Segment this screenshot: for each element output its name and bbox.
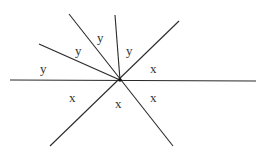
lines-group [10,14,256,146]
angle-label-y: y [126,43,133,58]
angle-label-x: x [115,96,122,111]
vertical-ray-line [115,15,120,80]
angle-label-y: y [75,43,82,58]
horizontal-line [10,80,256,81]
angle-label-x: x [150,61,157,76]
angle-label-y: y [40,61,47,76]
angle-label-x: x [69,90,76,105]
intersection-point [118,78,122,82]
rising-diagonal-line [50,21,179,146]
angle-label-x: x [150,90,157,105]
angles-diagram: y y y y x x x x [0,0,264,151]
angle-label-y: y [97,30,104,45]
